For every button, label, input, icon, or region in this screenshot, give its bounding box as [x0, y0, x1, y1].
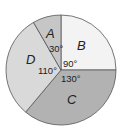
slice-a-label: A	[45, 26, 55, 41]
slice-a-angle: 30°	[49, 43, 64, 54]
slice-b-angle: 90°	[63, 58, 78, 69]
pie-chart: A 30° B 90° C 130° D 110°	[0, 0, 124, 138]
slice-c-label: C	[67, 92, 77, 107]
slice-d-angle: 110°	[38, 65, 57, 76]
slice-b-label: B	[77, 38, 86, 53]
slice-d-label: D	[26, 52, 35, 67]
slice-c-angle: 130°	[61, 73, 81, 84]
